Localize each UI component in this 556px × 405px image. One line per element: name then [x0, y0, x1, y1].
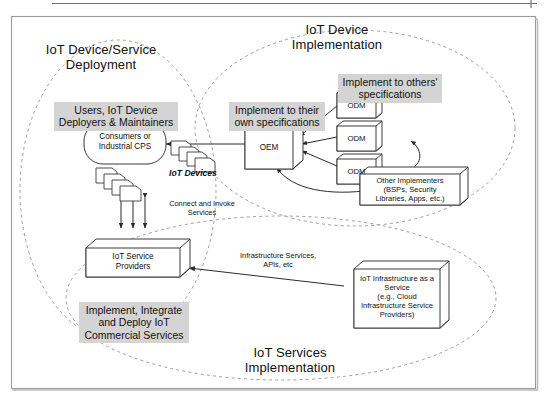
node-label-oem: OEM	[245, 143, 293, 153]
zone-title-device-service-deployment: IoT Device/Service Deployment	[6, 42, 196, 73]
highlight-others-specifications-label: Implement to others' specifications	[338, 74, 443, 103]
node-label-odm-3: ODM	[337, 167, 376, 176]
highlight-commercial-services-label: Implement, Integrate and Deploy IoT Comm…	[79, 302, 188, 343]
node-label-iot-service-providers: IoT Service Providers	[86, 252, 180, 271]
page-rule	[52, 0, 537, 8]
highlight-users-deployers: Users, IoT Device Deployers & Maintainer…	[32, 83, 200, 131]
highlight-others-specifications: Implement to others' specifications	[326, 55, 454, 103]
highlight-users-deployers-label: Users, IoT Device Deployers & Maintainer…	[54, 102, 178, 131]
highlight-own-specifications-label: Implement to their own specifications	[229, 102, 324, 131]
node-label-iot-infrastructure-service: IoT Infrastructure as a Service (e.g., C…	[354, 275, 440, 320]
node-label-consumers-cps: Consumers or Industrial CPS	[84, 132, 166, 151]
highlight-commercial-services: Implement, Integrate and Deploy IoT Comm…	[60, 283, 208, 344]
zone-title-iot-services-implementation: IoT Services Implementation	[195, 345, 385, 376]
annotation-connect-invoke: Connect and Invoke Services	[150, 200, 254, 217]
zone-title-iot-device-implementation: IoT Device Implementation	[242, 22, 432, 53]
annotation-infrastructure-services: Infrastructure Services, APIs, etc	[222, 252, 334, 269]
node-label-other-implementers: Other Implementers (BSPs, Security Libra…	[360, 177, 460, 204]
node-label-odm-1: ODM	[337, 101, 376, 110]
annotation-iot-devices: IoT Devices	[148, 168, 238, 178]
diagram-canvas: IoT Device/Service Deployment IoT Device…	[0, 0, 556, 405]
node-label-odm-2: ODM	[337, 134, 376, 143]
highlight-own-specifications: Implement to their own specifications	[219, 83, 335, 131]
